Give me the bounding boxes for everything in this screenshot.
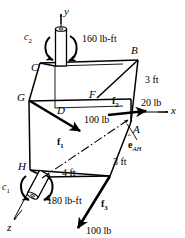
force-f1-magnitude: 100 lb	[84, 115, 109, 125]
force-label-f2: f2	[112, 96, 119, 109]
edge-G-H	[29, 101, 30, 170]
vertex-label-C: C	[31, 62, 38, 73]
couple-label-c1: c1	[2, 182, 10, 195]
axis-label-x: x	[171, 105, 176, 116]
unit-vector-subscript: AH	[132, 145, 141, 152]
vertex-label-A: A	[133, 124, 140, 135]
vertex-label-D: D	[57, 105, 65, 116]
couple-c2-index: 2	[28, 37, 31, 44]
force-f2-arrow	[108, 111, 146, 115]
force-f2-index: 2	[115, 101, 118, 108]
y-axis-shaft	[56, 27, 67, 66]
force-f2-magnitude: 20 lb	[141, 98, 161, 108]
axis-label-z: z	[7, 222, 11, 233]
dimension-depth-right: 3 ft	[113, 157, 127, 167]
couple-c1-magnitude: 180 lb-ft	[47, 196, 82, 206]
unit-vector-eAH-line	[42, 120, 128, 178]
vertex-label-B: B	[131, 45, 138, 56]
couple-label-c2: c2	[24, 32, 32, 45]
axis-label-y: y	[64, 6, 69, 17]
vertex-label-H: H	[18, 161, 26, 172]
edge-F-B-diagonal	[97, 60, 138, 98]
edge-C-B	[40, 60, 138, 63]
force-f1-index: 1	[60, 142, 63, 149]
force-f3-index: 3	[104, 204, 107, 211]
force-f3-magnitude: 100 lb	[86, 226, 111, 236]
couple-c1-index: 1	[6, 187, 9, 194]
vertex-label-G: G	[17, 92, 25, 103]
vertex-label-F: F	[89, 89, 96, 100]
dimension-height-right: 3 ft	[145, 75, 159, 85]
unit-vector-label: ̂ e AH	[128, 140, 142, 153]
unit-vector-symbol: e	[128, 139, 132, 150]
force-label-f1: f1	[57, 137, 64, 150]
force-label-f3: f3	[101, 199, 108, 212]
couple-c2-magnitude: 160 lb-ft	[82, 34, 117, 44]
figure-canvas: y x z C B G D F A H c2 160 lb-ft c1 180 …	[0, 0, 185, 238]
dimension-width-bottom: 4 ft	[62, 168, 76, 178]
edge-bottom-front	[45, 176, 110, 177]
